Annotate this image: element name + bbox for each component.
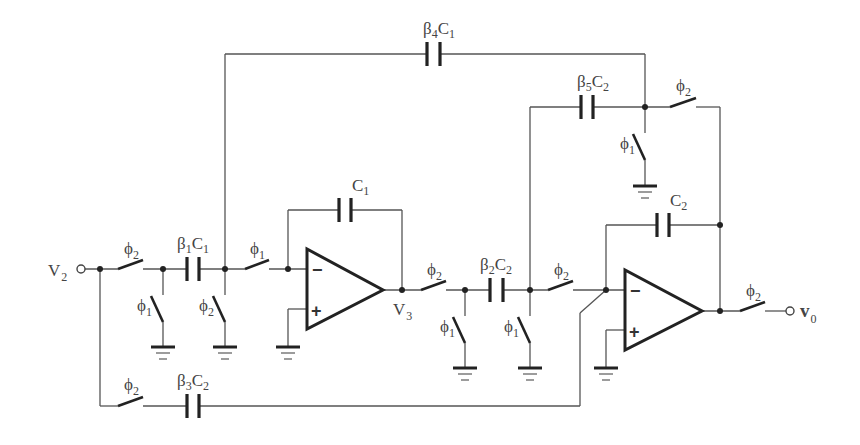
- label-switch-b5-series: ϕ2: [676, 76, 691, 99]
- ground-icon: [276, 347, 300, 359]
- label-switch-oa1-series: ϕ1: [250, 239, 265, 262]
- label-switch-b5-shunt: ϕ1: [620, 134, 635, 157]
- ground-icon: [518, 368, 542, 380]
- capacitor-b5c2: [581, 95, 593, 119]
- capacitor-b2c2: [490, 278, 503, 302]
- label-switch-in-shunt: ϕ1: [137, 296, 152, 319]
- capacitor-c1: [339, 198, 351, 222]
- label-switch-b1-shunt: ϕ2: [199, 296, 214, 319]
- ground-icon: [453, 368, 477, 380]
- label-switch-b2r-shunt: ϕ1: [504, 317, 519, 340]
- label-c2: C2: [670, 191, 687, 213]
- wires: [85, 54, 786, 406]
- capacitor-b3c2: [187, 394, 199, 418]
- svg-text:−: −: [630, 281, 641, 301]
- output-terminal: [786, 307, 794, 315]
- svg-text:+: +: [629, 322, 640, 342]
- label-b3c2: β3C2: [177, 371, 209, 393]
- ground-icon: [151, 347, 175, 359]
- label-switch-b2l-shunt: ϕ1: [440, 317, 455, 340]
- svg-text:+: +: [311, 301, 322, 321]
- capacitor-b1c1: [187, 257, 199, 281]
- label-switch-out-series: ϕ2: [746, 281, 761, 304]
- label-switch-v3-series: ϕ2: [427, 260, 442, 283]
- capacitor-c2: [657, 213, 669, 237]
- ground-icon: [633, 186, 657, 198]
- label-b1c1: β1C1: [177, 234, 209, 256]
- label-switch-b2-series: ϕ2: [554, 260, 569, 283]
- label-v2: V2: [48, 261, 67, 284]
- opamp-2: − +: [625, 270, 702, 350]
- svg-text:−: −: [312, 260, 323, 280]
- capacitor-b4c1: [427, 42, 440, 66]
- ground-symbols: [151, 186, 657, 380]
- label-switch-b3-series: ϕ2: [124, 375, 139, 398]
- sc-filter-schematic: − + − + V2 V3 v0 β1C1 β3C2 β4C1 C1 β2C2 …: [0, 0, 860, 445]
- label-b2c2: β2C2: [480, 255, 512, 277]
- ground-icon: [594, 368, 618, 380]
- label-v0: v0: [800, 300, 817, 326]
- label-switch-in-series: ϕ2: [124, 239, 139, 262]
- input-terminal: [77, 265, 85, 273]
- label-v3: V3: [393, 300, 412, 323]
- label-b5c2: β5C2: [577, 72, 609, 94]
- label-c1: C1: [352, 176, 369, 198]
- ground-icon: [213, 347, 237, 359]
- label-b4c1: β4C1: [423, 19, 455, 41]
- switch-levers: [118, 98, 765, 406]
- opamp-1: − +: [307, 249, 383, 329]
